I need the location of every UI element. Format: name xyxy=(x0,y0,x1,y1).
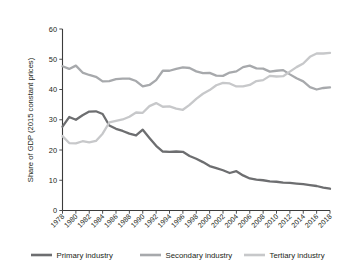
x-tick-label: 1988 xyxy=(116,213,133,230)
x-tick-label: 2006 xyxy=(237,213,254,230)
x-tick-label: 2000 xyxy=(196,213,213,230)
series-line-secondary-industry xyxy=(63,66,331,90)
x-tick-label: 1996 xyxy=(170,213,187,230)
y-axis-title: Share of GDP (2015 constant prices) xyxy=(26,57,35,182)
legend-label-primary-industry: Primary industry xyxy=(57,251,113,260)
x-tick-label: 2014 xyxy=(290,213,307,230)
series-line-tertiary-industry xyxy=(63,53,331,143)
x-tick-label: 1982 xyxy=(76,213,93,230)
x-tick-label: 1986 xyxy=(103,213,120,230)
y-tick-label: 0 xyxy=(53,206,57,215)
line-chart: Share of GDP (2015 constant prices) 0102… xyxy=(0,0,351,273)
chart-legend: Primary industrySecondary industryTertia… xyxy=(31,251,325,260)
chart-figure: Share of GDP (2015 constant prices) 0102… xyxy=(0,0,351,273)
x-tick-label: 1998 xyxy=(183,213,200,230)
legend-label-secondary-industry: Secondary industry xyxy=(166,251,233,260)
x-tick-label: 1980 xyxy=(63,213,80,230)
x-tick-label: 2016 xyxy=(303,213,320,230)
x-tick-label: 2002 xyxy=(210,213,227,230)
y-tick-label: 50 xyxy=(49,55,57,64)
x-tick-label: 2012 xyxy=(277,213,294,230)
x-tick-label: 1990 xyxy=(130,213,147,230)
x-tick-label: 1984 xyxy=(89,213,106,230)
y-tick-label: 20 xyxy=(49,146,57,155)
x-tick-label: 1992 xyxy=(143,213,160,230)
x-tick-label: 2008 xyxy=(250,213,267,230)
y-axis-ticks: 0102030405060 xyxy=(49,25,63,216)
series-line-primary-industry xyxy=(63,111,331,188)
series-lines xyxy=(63,53,331,189)
y-tick-label: 60 xyxy=(49,25,57,34)
x-axis-ticks: 1978198019821984198619881990199219941996… xyxy=(49,211,333,230)
y-axis-title-label: Share of GDP (2015 constant prices) xyxy=(26,57,35,182)
y-tick-label: 30 xyxy=(49,115,57,124)
x-tick-label: 2004 xyxy=(223,213,240,230)
y-tick-label: 10 xyxy=(49,176,57,185)
legend-label-tertiary-industry: Tertiary industry xyxy=(270,251,325,260)
x-tick-label: 1978 xyxy=(49,213,66,230)
y-tick-label: 40 xyxy=(49,85,57,94)
x-tick-label: 2018 xyxy=(317,213,334,230)
x-tick-label: 1994 xyxy=(156,213,173,230)
x-tick-label: 2010 xyxy=(263,213,280,230)
